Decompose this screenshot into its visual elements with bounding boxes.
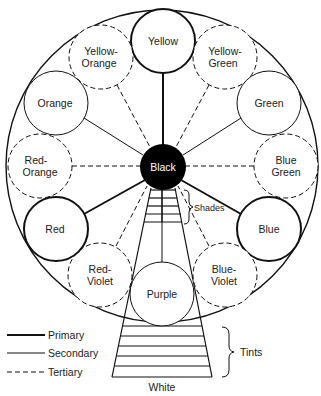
label-red-violet-1: Red-: [89, 263, 112, 275]
legend-primary-label: Primary: [48, 329, 85, 341]
label-red-orange-1: Red-: [25, 154, 48, 166]
legend: Primary Secondary Tertiary: [7, 329, 99, 378]
label-blue: Blue: [258, 223, 279, 235]
shades-label: Shades: [194, 203, 225, 213]
center-label: Black: [150, 161, 176, 173]
label-red-violet-2: Violet: [87, 275, 113, 287]
label-yellow-green-2: Green: [208, 57, 237, 69]
label-blue-green-1: Blue: [275, 154, 296, 166]
tints-label: Tints: [240, 346, 262, 358]
label-yellow: Yellow: [148, 35, 178, 47]
label-blue-green-2: Green: [271, 166, 300, 178]
label-yellow-orange-1: Yellow-: [84, 45, 118, 57]
label-purple: Purple: [147, 288, 178, 300]
legend-secondary-label: Secondary: [48, 347, 99, 359]
legend-tertiary-label: Tertiary: [48, 366, 83, 378]
white-label: White: [149, 381, 176, 393]
label-blue-violet-2: Violet: [211, 275, 237, 287]
label-green: Green: [254, 97, 283, 109]
label-red: Red: [45, 223, 64, 235]
label-red-orange-2: Orange: [22, 166, 57, 178]
label-yellow-green-1: Yellow-: [208, 45, 242, 57]
tints-brace-icon: [222, 327, 234, 377]
color-wheel-diagram: Black Yellow Yellow- Green Green Blue Gr…: [0, 0, 321, 396]
label-yellow-orange-2: Orange: [81, 57, 116, 69]
label-orange: Orange: [37, 97, 72, 109]
label-blue-violet-1: Blue-: [212, 263, 237, 275]
